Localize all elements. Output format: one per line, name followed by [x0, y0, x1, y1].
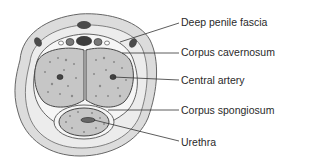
label-deep-penile-fascia: Deep penile fascia: [181, 16, 267, 28]
central-artery-left: [57, 75, 63, 80]
dorsal-nerve-right: [105, 41, 110, 45]
urethra: [81, 118, 95, 123]
superficial-dorsal-vein: [77, 21, 91, 29]
dorsal-artery-right: [94, 39, 102, 46]
dorsal-nerve-left: [59, 41, 64, 45]
label-corpus-spongiosum: Corpus spongiosum: [181, 104, 274, 116]
label-corpus-cavernosum: Corpus cavernosum: [181, 46, 275, 58]
label-urethra: Urethra: [181, 136, 216, 148]
label-central-artery: Central artery: [181, 74, 245, 86]
deep-dorsal-vein: [76, 36, 92, 46]
dorsal-artery-left: [66, 39, 74, 46]
